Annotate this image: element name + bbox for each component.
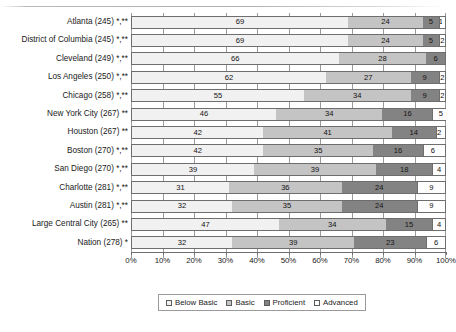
bar-segment-basic[interactable]: 34: [279, 219, 385, 230]
bar-segment-basic[interactable]: 35: [263, 145, 373, 156]
chart-legend: Below Basic Basic Proficient Advanced: [158, 294, 366, 311]
bar-segment-basic[interactable]: 27: [326, 72, 411, 83]
bar-stack[interactable]: 622792: [131, 71, 446, 84]
bar-row: Chicago (258) *,**553492: [0, 87, 446, 105]
bar-row: District of Columbia (245) *,**692452: [0, 31, 446, 49]
bar-segment-value: 24: [381, 37, 389, 45]
bar-segment-basic[interactable]: 36: [229, 182, 342, 193]
bar-stack[interactable]: 4734154: [131, 218, 446, 231]
bar-segment-proficient[interactable]: 5: [423, 35, 439, 46]
bar-segment-advanced[interactable]: 4: [432, 219, 445, 230]
bar-segment-advanced[interactable]: 9: [417, 182, 445, 193]
bar-segment-below-basic[interactable]: 32: [132, 201, 232, 212]
bar-stack[interactable]: 3136249: [131, 181, 446, 194]
bar-row-label: New York City (267) **: [0, 110, 131, 118]
bar-segment-value: 2: [437, 129, 441, 137]
bar-segment-proficient[interactable]: 9: [411, 90, 439, 101]
top-divider: [0, 6, 446, 7]
x-tick: [289, 252, 290, 255]
bar-segment-basic[interactable]: 41: [263, 127, 391, 138]
x-tick-label: 0%: [125, 256, 136, 265]
bar-segment-below-basic[interactable]: 62: [132, 72, 326, 83]
bar-segment-value: 39: [189, 166, 197, 174]
bar-segment-value: 55: [214, 92, 222, 100]
bar-segment-basic[interactable]: 34: [304, 90, 410, 101]
bar-segment-advanced[interactable]: 2: [439, 90, 445, 101]
bar-stack[interactable]: 4241142: [131, 126, 446, 139]
bar-segment-advanced[interactable]: 6: [426, 237, 445, 248]
bar-segment-basic[interactable]: 24: [348, 35, 423, 46]
bar-segment-proficient[interactable]: 16: [373, 145, 423, 156]
bar-segment-advanced[interactable]: 2: [436, 127, 442, 138]
bar-segment-proficient[interactable]: 16: [382, 109, 432, 120]
bar-segment-value: 15: [405, 221, 413, 229]
bar-segment-below-basic[interactable]: 32: [132, 237, 232, 248]
bar-segment-proficient[interactable]: 23: [354, 237, 426, 248]
bar-row: Charlotte (281) *,**3136249: [0, 179, 446, 197]
bar-segment-basic[interactable]: 39: [232, 237, 354, 248]
bar-segment-proficient[interactable]: 24: [342, 201, 417, 212]
bar-stack[interactable]: 553492: [131, 89, 446, 102]
legend-swatch-proficient: [264, 300, 270, 306]
bar-segment-advanced[interactable]: 2: [439, 72, 445, 83]
bar-segment-value: 16: [403, 110, 411, 118]
bar-segment-below-basic[interactable]: 42: [132, 145, 263, 156]
bar-stack[interactable]: 692451: [131, 16, 446, 29]
x-tick-label: 50%: [281, 256, 297, 265]
x-tick: [352, 252, 353, 255]
bar-segment-value: 9: [423, 74, 427, 82]
bar-segment-basic[interactable]: 28: [339, 53, 427, 64]
bar-segment-below-basic[interactable]: 46: [132, 109, 276, 120]
bar-stack[interactable]: 4634165: [131, 108, 446, 121]
legend-item-advanced[interactable]: Advanced: [314, 298, 358, 307]
bar-segment-advanced[interactable]: 0: [445, 53, 446, 64]
bar-segment-advanced[interactable]: 6: [423, 145, 442, 156]
bar-segment-proficient[interactable]: 6: [426, 53, 445, 64]
bar-stack[interactable]: 3239236: [131, 236, 446, 249]
x-tick-label: 90%: [407, 256, 423, 265]
bar-segment-value: 35: [283, 202, 291, 210]
legend-item-proficient[interactable]: Proficient: [264, 298, 306, 307]
bar-segment-basic[interactable]: 34: [276, 109, 382, 120]
bar-segment-below-basic[interactable]: 66: [132, 53, 339, 64]
bar-segment-proficient[interactable]: 18: [376, 164, 432, 175]
bar-stack[interactable]: 662860: [131, 52, 446, 65]
bar-segment-basic[interactable]: 39: [254, 164, 376, 175]
bar-segment-advanced[interactable]: 1: [439, 17, 442, 28]
bar-stack[interactable]: 692452: [131, 34, 446, 47]
bar-segment-basic[interactable]: 24: [348, 17, 423, 28]
x-axis: 0%10%20%30%40%50%60%70%80%90%100%: [131, 252, 446, 270]
legend-label-advanced: Advanced: [323, 298, 358, 307]
bar-segment-proficient[interactable]: 5: [423, 17, 439, 28]
bar-segment-advanced[interactable]: 2: [439, 35, 445, 46]
bar-segment-below-basic[interactable]: 55: [132, 90, 304, 101]
bar-segment-advanced[interactable]: 5: [432, 109, 448, 120]
bar-segment-value: 69: [236, 18, 244, 26]
x-tick: [383, 252, 384, 255]
bar-segment-value: 28: [378, 55, 386, 63]
bar-stack[interactable]: 3939184: [131, 163, 446, 176]
bar-segment-proficient[interactable]: 24: [342, 182, 417, 193]
bar-segment-below-basic[interactable]: 47: [132, 219, 279, 230]
bar-segment-proficient[interactable]: 15: [386, 219, 433, 230]
bar-segment-value: 36: [281, 184, 289, 192]
bar-segment-below-basic[interactable]: 42: [132, 127, 263, 138]
bar-segment-advanced[interactable]: 9: [417, 201, 445, 212]
bar-segment-proficient[interactable]: 9: [411, 72, 439, 83]
bar-segment-value: 9: [429, 202, 433, 210]
bar-segment-below-basic[interactable]: 69: [132, 35, 348, 46]
bar-segment-below-basic[interactable]: 39: [132, 164, 254, 175]
bar-stack[interactable]: 3235249: [131, 200, 446, 213]
bar-segment-below-basic[interactable]: 69: [132, 17, 348, 28]
bar-segment-basic[interactable]: 35: [232, 201, 342, 212]
bar-row-label: Atlanta (245) *,**: [0, 18, 131, 26]
bar-segment-advanced[interactable]: 4: [432, 164, 445, 175]
bar-segment-below-basic[interactable]: 31: [132, 182, 229, 193]
x-tick: [446, 252, 447, 255]
legend-item-below-basic[interactable]: Below Basic: [166, 298, 217, 307]
bar-stack[interactable]: 4235166: [131, 144, 446, 157]
legend-item-basic[interactable]: Basic: [226, 298, 254, 307]
bar-row: Boston (270) *,**4235166: [0, 142, 446, 160]
bar-segment-proficient[interactable]: 14: [392, 127, 436, 138]
